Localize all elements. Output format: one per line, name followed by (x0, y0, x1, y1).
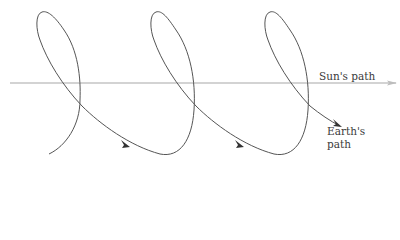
earth-path-label-line1: Earth's (327, 125, 365, 138)
earth-path-label-line2: path (327, 138, 365, 151)
sun-path-label: Sun's path (319, 70, 375, 83)
earth-path-label: Earth's path (327, 125, 365, 151)
